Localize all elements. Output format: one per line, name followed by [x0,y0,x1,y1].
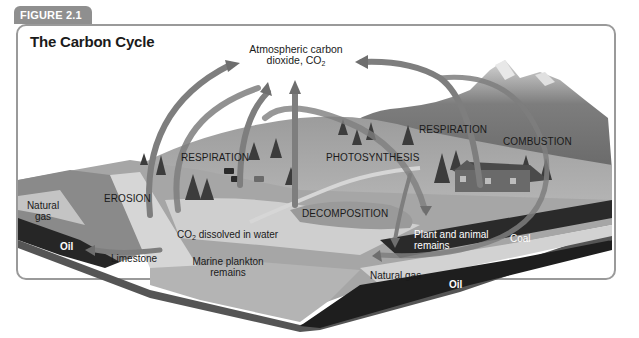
label-decomposition: DECOMPOSITION [302,208,388,219]
label-coal: Coal [510,233,531,244]
label-co2-prefix: CO [177,229,192,240]
label-natural-gas-left-line2: gas [35,211,51,222]
label-respiration-right: RESPIRATION [419,124,487,135]
label-erosion: EROSION [104,193,151,204]
label-marine-plankton-line1: Marine plankton [192,256,263,267]
label-photosynthesis: PHOTOSYNTHESIS [326,152,419,163]
label-co2-dissolved: CO2 dissolved in water [177,229,278,243]
label-marine-plankton-line2: remains [210,267,246,278]
label-co2-suffix: dissolved in water [196,229,278,240]
label-limestone: Limestone [111,253,157,264]
label-atmospheric-co2: Atmospheric carbon dioxide, CO2 [236,44,356,69]
label-plant-animal-line1: Plant and animal [414,229,489,240]
label-natural-gas-left: Natural gas [20,200,66,222]
subscript-2: 2 [321,60,325,67]
label-natural-gas-bottom: Natural gas [370,270,421,281]
label-plant-animal-remains: Plant and animal remains [414,229,489,251]
label-atmospheric-co2-line2: dioxide, CO [267,54,322,66]
label-marine-plankton: Marine plankton remains [188,256,268,278]
label-respiration-left: RESPIRATION [181,152,249,163]
label-oil-bottom: Oil [449,279,462,290]
label-oil-left: Oil [60,241,73,252]
label-natural-gas-left-line1: Natural [27,200,59,211]
label-combustion: COMBUSTION [503,136,572,147]
label-plant-animal-line2: remains [414,240,450,251]
